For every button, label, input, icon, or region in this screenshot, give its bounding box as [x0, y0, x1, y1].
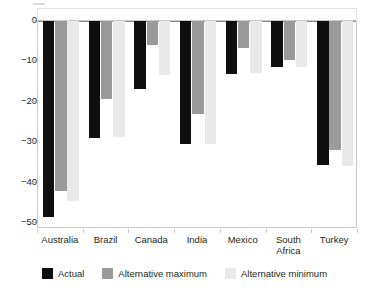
bar-mexico-alternative-maximum — [238, 21, 250, 48]
legend-label: Actual — [58, 269, 84, 279]
x-axis-category-label: Turkey — [305, 234, 363, 245]
y-axis-tick-mark — [31, 222, 36, 223]
bar-mexico-actual — [226, 21, 238, 74]
bar-group — [221, 21, 267, 227]
bar-group — [267, 21, 313, 227]
bar-group — [175, 21, 221, 227]
cropped-panel-remnant — [37, 8, 357, 19]
bar-brazil-actual — [89, 21, 101, 138]
legend-label: Alternative maximum — [118, 269, 207, 279]
bar-mexico-alternative-minimum — [250, 21, 262, 73]
y-axis: 0−10−20−30−40−50 — [0, 0, 37, 294]
x-axis-tick-mark — [83, 229, 84, 233]
x-axis-tick-mark — [128, 229, 129, 233]
legend-swatch-icon — [225, 268, 236, 279]
legend-swatch-icon — [42, 268, 53, 279]
bar-canada-alternative-maximum — [147, 21, 159, 45]
bar-canada-actual — [134, 21, 146, 89]
bar-group — [84, 21, 130, 227]
legend-item[interactable]: Alternative maximum — [102, 268, 207, 279]
x-axis-tick-mark — [357, 229, 358, 233]
bar-south-africa-alternative-maximum — [284, 21, 296, 60]
y-axis-tick-mark — [31, 141, 36, 142]
x-axis-tick-mark — [37, 229, 38, 233]
bar-group — [38, 21, 84, 227]
legend-label: Alternative minimum — [241, 269, 327, 279]
bar-turkey-actual — [317, 21, 329, 165]
bar-brazil-alternative-maximum — [101, 21, 113, 99]
bar-australia-actual — [43, 21, 55, 217]
bar-south-africa-alternative-minimum — [296, 21, 308, 67]
bar-india-actual — [180, 21, 192, 144]
bar-turkey-alternative-minimum — [342, 21, 354, 166]
bar-group — [312, 21, 358, 227]
y-axis-tick-mark — [31, 60, 36, 61]
bar-canada-alternative-minimum — [159, 21, 171, 75]
x-axis-tick-mark — [220, 229, 221, 233]
bar-group — [129, 21, 175, 227]
bar-brazil-alternative-minimum — [113, 21, 125, 137]
chart-figure: 0−10−20−30−40−50 ActualAlternative maxim… — [0, 0, 369, 294]
bar-india-alternative-maximum — [192, 21, 204, 114]
y-axis-tick-mark — [31, 20, 36, 21]
bar-australia-alternative-maximum — [55, 21, 67, 191]
legend-swatch-icon — [102, 268, 113, 279]
y-axis-tick-mark — [31, 182, 36, 183]
x-axis-tick-mark — [266, 229, 267, 233]
bar-turkey-alternative-maximum — [329, 21, 341, 150]
bar-australia-alternative-minimum — [67, 21, 79, 201]
legend-item[interactable]: Alternative minimum — [225, 268, 327, 279]
x-axis-tick-mark — [174, 229, 175, 233]
chart-legend: ActualAlternative maximumAlternative min… — [0, 268, 369, 286]
legend-item[interactable]: Actual — [42, 268, 84, 279]
x-axis-tick-mark — [311, 229, 312, 233]
plot-area — [37, 20, 357, 228]
y-axis-tick-mark — [31, 101, 36, 102]
bar-india-alternative-minimum — [205, 21, 217, 144]
bar-south-africa-actual — [271, 21, 283, 67]
